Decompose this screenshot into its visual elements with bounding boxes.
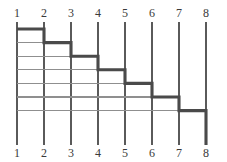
bottom-label-3: 3 <box>68 146 74 160</box>
top-label-5: 5 <box>122 6 128 20</box>
highlighted-path-group <box>17 29 206 145</box>
bottom-label-1: 1 <box>14 146 20 160</box>
ladder-diagram-figure: 12345678 12345678 <box>0 0 227 162</box>
top-label-7: 7 <box>176 6 182 20</box>
bottom-label-5: 5 <box>122 146 128 160</box>
top-label-8: 8 <box>203 6 209 20</box>
top-label-2: 2 <box>41 6 47 20</box>
bottom-label-4: 4 <box>95 146 101 160</box>
bottom-label-7: 7 <box>176 146 182 160</box>
top-label-group: 12345678 <box>14 6 209 20</box>
bottom-label-8: 8 <box>203 146 209 160</box>
top-label-4: 4 <box>95 6 101 20</box>
top-label-6: 6 <box>149 6 155 20</box>
bottom-label-2: 2 <box>41 146 47 160</box>
top-label-3: 3 <box>68 6 74 20</box>
diagram-canvas: 12345678 12345678 <box>0 0 227 162</box>
bottom-label-6: 6 <box>149 146 155 160</box>
bottom-label-group: 12345678 <box>14 146 209 160</box>
top-label-1: 1 <box>14 6 20 20</box>
highlighted-path <box>17 29 206 145</box>
